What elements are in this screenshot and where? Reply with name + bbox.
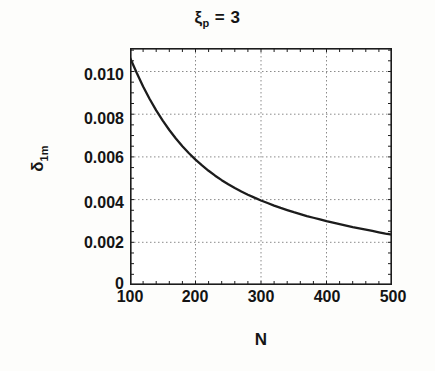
x-axis-label: N xyxy=(130,330,392,350)
y-tick-label: 0.006 xyxy=(34,149,124,167)
title-subscript: p xyxy=(203,17,210,29)
x-tick-label: 500 xyxy=(365,288,421,306)
title-equals: = 3 xyxy=(215,8,241,27)
figure-canvas: ξp= 3 δ1m 0 0.002 0.004 0.006 0.008 0.01… xyxy=(0,0,435,371)
y-tick-label: 0.002 xyxy=(34,234,124,252)
title-symbol: ξ xyxy=(195,8,203,27)
x-tick-label: 300 xyxy=(233,288,289,306)
plot-area xyxy=(130,48,392,285)
x-tick-label: 100 xyxy=(102,288,158,306)
y-tick-label-group: 0 0.002 0.004 0.006 0.008 0.010 xyxy=(34,0,124,371)
y-tick-label: 0.008 xyxy=(34,110,124,128)
y-tick-label: 0.004 xyxy=(34,194,124,212)
x-tick-label: 200 xyxy=(167,288,223,306)
y-tick-label: 0.010 xyxy=(34,66,124,84)
x-tick-label: 400 xyxy=(299,288,355,306)
plot-svg xyxy=(130,48,392,285)
